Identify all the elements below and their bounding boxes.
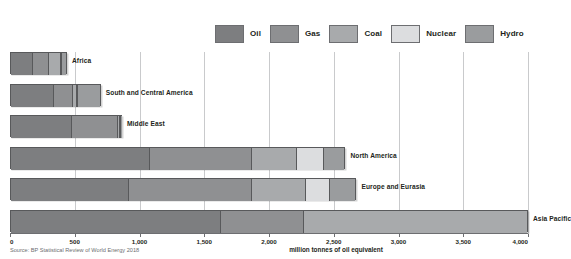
bar-segment-oil[interactable] — [11, 211, 221, 233]
legend-swatch-oil — [215, 25, 244, 43]
legend-label-coal: Coal — [364, 29, 382, 38]
stacked-bar[interactable] — [10, 52, 67, 74]
bar-segment-oil[interactable] — [11, 85, 54, 107]
bar-segment-gas[interactable] — [221, 211, 304, 233]
x-tick-label: 3,000 — [391, 238, 406, 245]
bar-segment-gas[interactable] — [150, 148, 252, 170]
bar-segment-gas[interactable] — [33, 53, 49, 75]
bar-label-africa: Africa — [72, 57, 91, 64]
bar-segment-nuclear[interactable] — [297, 148, 325, 170]
bar-row: North America — [10, 147, 528, 169]
bar-segment-oil[interactable] — [11, 116, 72, 138]
x-tick — [10, 234, 11, 237]
bar-segment-hydro[interactable] — [330, 179, 355, 201]
stacked-bar[interactable] — [10, 210, 528, 232]
x-tick-label: 3,500 — [456, 238, 471, 245]
legend-item-gas[interactable]: Gas — [270, 25, 320, 43]
legend-item-hydro[interactable]: Hydro — [465, 25, 524, 43]
bar-segment-gas[interactable] — [72, 116, 119, 138]
x-tick — [528, 234, 529, 237]
plot-area: AfricaSouth and Central AmericaMiddle Ea… — [10, 52, 528, 234]
bar-segment-coal[interactable] — [252, 148, 297, 170]
x-tick — [399, 234, 400, 237]
bar-segment-coal[interactable] — [252, 179, 306, 201]
legend-label-oil: Oil — [250, 29, 261, 38]
bar-row: Asia Pacific — [10, 210, 528, 232]
bar-segment-hydro[interactable] — [78, 85, 99, 107]
legend-item-oil[interactable]: Oil — [215, 25, 261, 43]
bar-label-asia-pacific: Asia Pacific — [533, 215, 571, 222]
bar-segment-hydro[interactable] — [62, 53, 66, 75]
x-tick-label: 4,000 — [513, 238, 528, 245]
legend-item-coal[interactable]: Coal — [329, 25, 382, 43]
bar-label-south-and-central-america: South and Central America — [106, 89, 193, 96]
cropped-top-text — [210, 0, 211, 6]
x-tick — [334, 234, 335, 237]
legend-swatch-nuclear — [391, 25, 420, 43]
x-tick-label: 500 — [70, 238, 80, 245]
legend-item-nuclear[interactable]: Nuclear — [391, 25, 456, 43]
bar-segment-coal[interactable] — [49, 53, 61, 75]
bar-segment-oil[interactable] — [11, 53, 33, 75]
legend-swatch-gas — [270, 25, 299, 43]
bar-label-europe-and-eurasia: Europe and Eurasia — [361, 183, 425, 190]
bar-segment-coal[interactable] — [304, 211, 527, 233]
bar-segment-nuclear[interactable] — [306, 179, 330, 201]
bar-rows: AfricaSouth and Central AmericaMiddle Ea… — [10, 52, 528, 234]
bar-segment-gas[interactable] — [54, 85, 73, 107]
legend-label-gas: Gas — [305, 29, 320, 38]
source-note: Source: BP Statistical Review of World E… — [10, 247, 139, 253]
x-axis-title-text: million tonnes of oil equivalent — [289, 246, 383, 253]
x-tick-label: 1,000 — [132, 238, 147, 245]
legend-swatch-hydro — [465, 25, 494, 43]
legend-label-hydro: Hydro — [500, 29, 524, 38]
x-tick — [463, 234, 464, 237]
bar-segment-oil[interactable] — [11, 148, 150, 170]
bar-row: South and Central America — [10, 84, 528, 106]
bar-row: Europe and Eurasia — [10, 178, 528, 200]
x-tick — [75, 234, 76, 237]
chart-legend: Oil Gas Coal Nuclear Hydro — [215, 24, 533, 43]
bar-segment-gas[interactable] — [129, 179, 251, 201]
bar-segment-oil[interactable] — [11, 179, 129, 201]
bar-label-middle-east: Middle East — [127, 120, 165, 127]
x-axis: 05001,0001,5002,0002,5003,0003,5004,000 — [10, 234, 528, 246]
stacked-bar[interactable] — [10, 84, 101, 106]
bar-row: Africa — [10, 52, 528, 74]
x-tick-label: 2,000 — [261, 238, 276, 245]
x-tick — [204, 234, 205, 237]
legend-swatch-coal — [329, 25, 358, 43]
bar-segment-hydro[interactable] — [324, 148, 344, 170]
legend-label-nuclear: Nuclear — [426, 29, 456, 38]
x-tick — [140, 234, 141, 237]
stacked-bar[interactable] — [10, 115, 122, 137]
bar-label-north-america: North America — [350, 152, 397, 159]
x-tick-label: 2,500 — [326, 238, 341, 245]
bar-row: Middle East — [10, 115, 528, 137]
stacked-bar[interactable] — [10, 147, 345, 169]
stacked-bar[interactable] — [10, 178, 356, 200]
x-tick-label: 1,500 — [197, 238, 212, 245]
x-tick — [269, 234, 270, 237]
x-tick-label: 0 — [10, 238, 13, 245]
gridline — [528, 52, 529, 234]
